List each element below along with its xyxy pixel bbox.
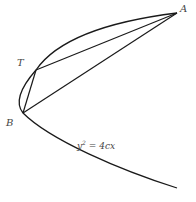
- equation-label: y2 = 4cx: [76, 139, 115, 151]
- point-label-A: A: [179, 3, 187, 14]
- segment-TB: [23, 70, 36, 113]
- equation-rest: = 4cx: [86, 141, 115, 151]
- parabola-diagram: A T B y2 = 4cx: [0, 0, 196, 202]
- segment-BA: [23, 13, 177, 113]
- segment-AT: [36, 13, 177, 70]
- point-label-T: T: [17, 57, 25, 68]
- point-label-B: B: [5, 117, 13, 128]
